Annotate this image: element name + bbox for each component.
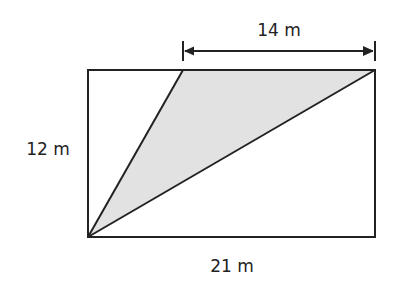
geometry-diagram: 14 m 12 m 21 m [0, 0, 394, 287]
label-left-dimension: 12 m [26, 139, 70, 159]
label-top-dimension: 14 m [257, 20, 301, 40]
label-bottom-dimension: 21 m [210, 256, 254, 276]
